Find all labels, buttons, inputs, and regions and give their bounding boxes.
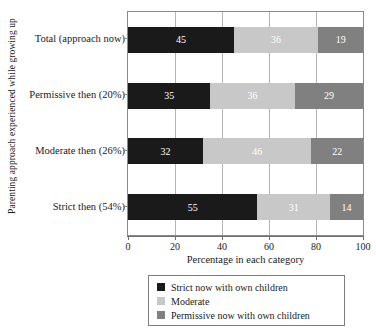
bar-segment[interactable]: 46	[203, 138, 311, 164]
legend-swatch-icon	[157, 283, 165, 291]
legend-item[interactable]: Strict now with own children	[157, 280, 344, 294]
stacked-bar-chart: Parenting approach experienced while gro…	[0, 0, 376, 333]
bar-row[interactable]: 324622	[128, 138, 363, 164]
y-axis-tick-mark	[123, 206, 127, 207]
x-axis-tick-label: 60	[254, 241, 284, 252]
x-axis-tick-mark	[269, 236, 270, 240]
y-axis-tick-mark	[123, 150, 127, 151]
legend-label: Strict now with own children	[171, 282, 288, 293]
bar-row[interactable]: 353629	[128, 83, 363, 109]
plot-area: 453619353629324622553114	[127, 11, 364, 236]
bar-segment[interactable]: 45	[128, 27, 234, 53]
y-axis-tick-mark	[123, 94, 127, 95]
x-axis-line	[127, 236, 364, 237]
bar-row[interactable]: 553114	[128, 194, 363, 220]
bar-segment[interactable]: 32	[128, 138, 203, 164]
x-axis-tick-mark	[316, 236, 317, 240]
y-axis-tick-mark	[123, 38, 127, 39]
x-axis-tick-mark	[222, 236, 223, 240]
legend-swatch-icon	[157, 311, 165, 319]
x-axis-tick-label: 80	[301, 241, 331, 252]
legend-item[interactable]: Permissive now with own children	[157, 308, 344, 322]
y-axis-tick-label: Total (approach now)	[7, 33, 125, 44]
legend-label: Moderate	[171, 296, 209, 307]
legend-swatch-icon	[157, 297, 165, 305]
x-axis-tick-label: 0	[113, 241, 143, 252]
x-axis-tick-label: 100	[348, 241, 376, 252]
bar-segment[interactable]: 14	[330, 194, 363, 220]
x-axis-tick-mark	[128, 236, 129, 240]
bar-row[interactable]: 453619	[128, 27, 363, 53]
bar-segment[interactable]: 31	[257, 194, 330, 220]
x-axis-tick-mark	[175, 236, 176, 240]
x-axis-title: Percentage in each category	[127, 254, 364, 265]
y-axis-tick-label: Permissive then (20%)	[7, 89, 125, 100]
bar-segment[interactable]: 36	[210, 83, 295, 109]
y-axis-tick-labels: Total (approach now)Permissive then (20%…	[5, 0, 125, 240]
legend-label: Permissive now with own children	[171, 310, 310, 321]
x-axis-tick-label: 20	[160, 241, 190, 252]
bar-segment[interactable]: 29	[295, 83, 363, 109]
bar-segment[interactable]: 55	[128, 194, 257, 220]
y-axis-tick-label: Moderate then (26%)	[7, 145, 125, 156]
y-axis-tick-label: Strict then (54%)	[7, 201, 125, 212]
x-axis-tick-label: 40	[207, 241, 237, 252]
bar-segment[interactable]: 19	[318, 27, 363, 53]
bar-segment[interactable]: 36	[234, 27, 319, 53]
bar-segment[interactable]: 35	[128, 83, 210, 109]
legend-item[interactable]: Moderate	[157, 294, 344, 308]
bar-segment[interactable]: 22	[311, 138, 363, 164]
chart-legend: Strict now with own childrenModeratePerm…	[148, 275, 345, 326]
x-axis-tick-mark	[363, 236, 364, 240]
